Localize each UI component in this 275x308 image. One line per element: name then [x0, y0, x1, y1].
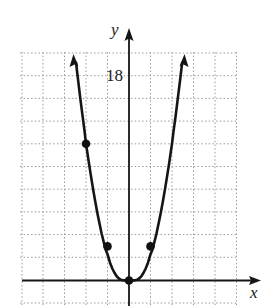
point-0-0	[125, 276, 134, 285]
x-axis-label: x	[250, 283, 258, 303]
plotted-points	[82, 140, 155, 285]
y-tick-label-18: 18	[106, 66, 123, 86]
point-neg2-12	[82, 140, 91, 149]
curve-left-arrow-icon	[70, 54, 79, 67]
y-axis-label: y	[111, 20, 119, 40]
point-1-3	[146, 242, 155, 251]
point-neg1-3	[103, 242, 112, 251]
parabola-graph	[0, 0, 275, 308]
curve-right-arrow-icon	[180, 54, 189, 67]
